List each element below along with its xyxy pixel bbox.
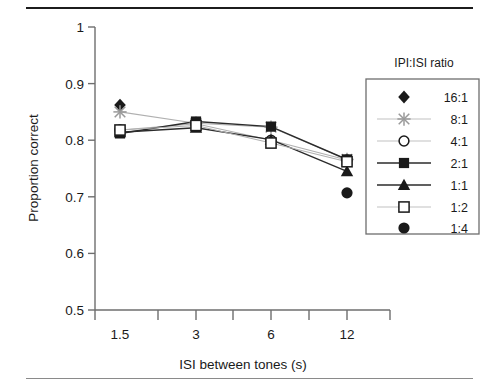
series-markers	[113, 99, 353, 199]
marker-filled-circle	[398, 222, 409, 233]
legend-label-6: 1:4	[451, 222, 468, 236]
marker-filled-circle	[341, 187, 352, 198]
x-tick-label-15: 1.5	[111, 327, 130, 342]
x-tick-label-6: 6	[267, 327, 275, 342]
marker-filled-square	[399, 158, 409, 168]
y-tick-label-06: 0.6	[65, 246, 84, 261]
series-lines	[120, 112, 347, 171]
marker-open-circle	[399, 136, 409, 146]
legend-label-1: 8:1	[451, 113, 468, 127]
marker-filled-square	[266, 122, 276, 132]
marker-open-square	[342, 157, 352, 167]
x-axis: 1.5 3 6 12 ISI between tones (s)	[95, 310, 390, 372]
y-tick-label-09: 0.9	[65, 77, 84, 92]
series-line-2	[120, 124, 347, 160]
marker-open-square	[115, 125, 125, 135]
series-line-1	[120, 112, 347, 160]
chart-svg: 1 0.9 0.8 0.7 0.6 0.5 Proportion correct…	[0, 0, 486, 389]
marker-open-square	[399, 202, 409, 212]
marker-open-square	[191, 120, 201, 130]
y-tick-label-08: 0.8	[65, 133, 84, 148]
legend-label-5: 1:2	[451, 201, 468, 215]
y-axis-title: Proportion correct	[26, 114, 41, 222]
legend-title: IPI:ISI ratio	[394, 56, 454, 70]
legend: IPI:ISI ratio 16:18:14:12:11:11:21:4	[366, 56, 479, 236]
y-tick-label-05: 0.5	[65, 303, 84, 318]
marker-x-cross	[113, 105, 126, 118]
figure-container: 1 0.9 0.8 0.7 0.6 0.5 Proportion correct…	[0, 0, 486, 389]
legend-label-0: 16:1	[444, 91, 468, 105]
x-tick-label-12: 12	[339, 327, 354, 342]
legend-label-3: 2:1	[451, 157, 468, 171]
y-axis: 1 0.9 0.8 0.7 0.6 0.5 Proportion correct	[26, 20, 95, 318]
legend-label-2: 4:1	[451, 135, 468, 149]
marker-open-square	[266, 138, 276, 148]
x-tick-label-3: 3	[192, 327, 200, 342]
legend-label-4: 1:1	[451, 179, 468, 193]
y-tick-label-1: 1	[76, 20, 84, 35]
y-tick-label-07: 0.7	[65, 190, 84, 205]
marker-x-cross	[397, 112, 410, 125]
x-axis-title: ISI between tones (s)	[179, 357, 307, 372]
